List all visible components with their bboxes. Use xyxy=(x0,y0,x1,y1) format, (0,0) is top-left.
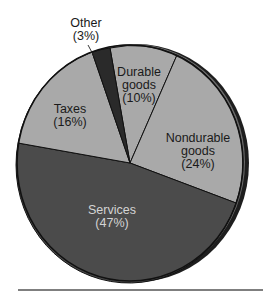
label-durable-name-2: goods xyxy=(122,78,156,92)
label-other-pct: (3%) xyxy=(73,29,99,43)
label-taxes-pct: (16%) xyxy=(53,115,86,129)
label-durable-name: Durable xyxy=(117,65,161,79)
label-nondurable-pct: (24%) xyxy=(181,157,214,171)
label-other-name: Other xyxy=(70,16,101,30)
label-nondurable-name: Nondurable xyxy=(166,131,231,145)
label-durable-pct: (10%) xyxy=(122,91,155,105)
label-services-name: Services xyxy=(88,203,136,217)
label-taxes-name: Taxes xyxy=(54,102,87,116)
pie-chart: Other (3%) Durable goods (10%) Taxes (16… xyxy=(0,0,263,295)
label-nondurable-name-2: goods xyxy=(181,144,215,158)
label-services-pct: (47%) xyxy=(95,216,128,230)
